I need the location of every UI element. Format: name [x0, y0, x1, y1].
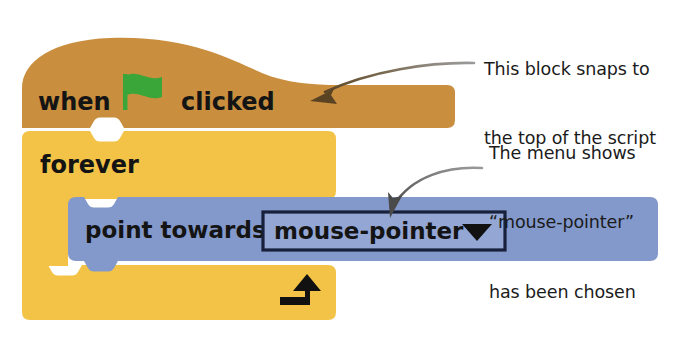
forever-label: forever — [40, 151, 139, 179]
point-towards-dropdown[interactable]: mouse-pointer — [263, 212, 505, 250]
figure-canvas: forever when clicked point towards — [0, 0, 686, 337]
clicked-label: clicked — [181, 88, 275, 116]
annotation-dropdown-line-1: The menu shows — [489, 142, 636, 165]
when-label: when — [38, 88, 111, 116]
annotation-dropdown-line-3: has been chosen — [489, 281, 636, 304]
annotation-dropdown: The menu shows “mouse-pointer” has been … — [489, 96, 636, 337]
point-towards-label: point towards — [85, 217, 266, 243]
dropdown-value: mouse-pointer — [274, 218, 464, 244]
annotation-dropdown-line-2: “mouse-pointer” — [489, 211, 636, 234]
annotation-hat-line-1: This block snaps to — [484, 58, 656, 81]
block-when-flag-clicked[interactable]: when clicked — [22, 38, 455, 128]
